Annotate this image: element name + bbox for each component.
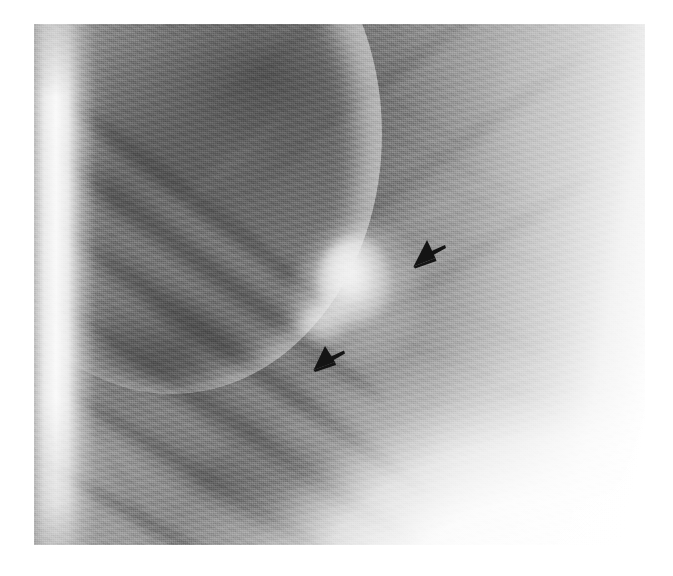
pulmonary-vessel-12: [89, 423, 164, 545]
pulmonary-vessel-bright-1: [300, 45, 457, 157]
hemidiaphragm: [34, 24, 645, 545]
pulmonary-vessel-9: [362, 324, 497, 380]
annotation-arrow-upper[interactable]: [410, 236, 448, 274]
lung-apex-border: [34, 24, 382, 394]
rib-interspace-5: [34, 405, 510, 545]
pulmonary-vessel-11: [472, 368, 575, 424]
rib-interspace-4: [34, 317, 486, 545]
lung-field-base: [34, 24, 645, 545]
pulmonary-vessel-6: [125, 257, 214, 390]
pulmonary-vessel-8: [240, 423, 397, 545]
chest-wall-stripe: [34, 24, 645, 545]
pulmonary-vessel-bright-4: [411, 342, 570, 429]
pulmonary-vessel-5: [180, 146, 268, 255]
figure-root: [0, 0, 673, 576]
anterior-rib-2: [200, 24, 519, 120]
posterior-rib-1: [34, 44, 348, 322]
annotation-arrow-lower[interactable]: [311, 343, 347, 379]
rib-interspace-1: [34, 81, 364, 360]
arrow-lower-tail: [330, 351, 345, 362]
posterior-rib-4: [34, 271, 474, 545]
field-edge-fade: [34, 24, 645, 545]
pulmonary-vessel-4: [437, 230, 555, 272]
arrow-upper-tail: [431, 245, 447, 256]
pulmonary-vessel-7: [150, 356, 273, 490]
rib-interspace-2: [34, 153, 406, 450]
anterior-rib-1: [150, 24, 449, 45]
posterior-rib-6: [34, 449, 523, 545]
pulmonary-vessel-3: [418, 174, 551, 235]
rib-interspace-3: [34, 231, 455, 537]
posterior-rib-3: [34, 188, 434, 502]
nodule-core: [317, 237, 391, 325]
lower-lobe-shadow: [34, 24, 645, 545]
posterior-rib-5: [34, 359, 507, 545]
pulmonary-vessel-1: [331, 65, 466, 150]
upper-lung-zone-shadow: [34, 24, 645, 545]
pulmonary-vessel-10: [452, 301, 560, 369]
radiograph-plate[interactable]: [34, 24, 645, 545]
film-grain-fine: [34, 24, 645, 545]
pulmonary-vessel-bright-5: [170, 109, 290, 219]
film-grain-coarse: [34, 24, 645, 545]
anterior-rib-3: [235, 24, 566, 202]
pulmonary-vessel-2: [372, 121, 529, 205]
